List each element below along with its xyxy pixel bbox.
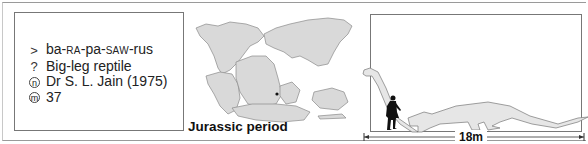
fact-named-by: n Dr S. L. Jain (1975) <box>27 74 167 90</box>
location-marker-icon <box>275 92 278 95</box>
pronunciation-arrow-icon: > <box>27 43 41 59</box>
meaning-question-icon: ? <box>27 59 41 75</box>
jurassic-world-map <box>192 12 356 126</box>
fact-mass: m 37 <box>27 90 167 106</box>
dinosaur-silhouette <box>363 68 588 132</box>
length-label: 18m <box>455 130 487 144</box>
size-comparison-illustration <box>360 14 588 134</box>
named-by-n-icon: n <box>29 77 40 88</box>
continents <box>196 18 352 122</box>
info-panel: > ba-RA-pa-SAW-rus ? Big-leg reptile n D… <box>14 12 184 131</box>
pronunciation-text: ba-RA-pa-SAW-rus <box>46 42 153 59</box>
mass-m-icon: m <box>29 92 40 103</box>
fact-pronunciation: > ba-RA-pa-SAW-rus <box>27 42 167 59</box>
meaning-text: Big-leg reptile <box>46 59 132 75</box>
fact-meaning: ? Big-leg reptile <box>27 59 167 75</box>
fact-list: > ba-RA-pa-SAW-rus ? Big-leg reptile n D… <box>27 42 167 106</box>
named-by-text: Dr S. L. Jain (1975) <box>46 74 167 90</box>
map-caption: Jurassic period <box>188 119 288 134</box>
mass-text: 37 <box>46 90 62 106</box>
